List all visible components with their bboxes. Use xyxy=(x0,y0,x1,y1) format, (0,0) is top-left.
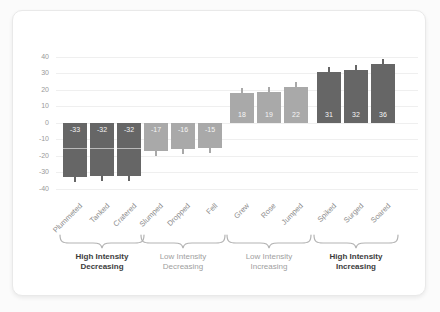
group-label-line2: Decreasing xyxy=(56,262,148,272)
error-whisker xyxy=(155,148,157,156)
bar-value-label: 18 xyxy=(230,111,254,118)
bar-highlight-stripe xyxy=(117,148,141,150)
bar-chart: 403020100-10-20-30-40-33Plummeted-32Tank… xyxy=(13,11,425,295)
group-label-line2: Decreasing xyxy=(137,262,229,272)
group-label-low-intensity-increasing: Low IntensityIncreasing xyxy=(223,252,315,273)
error-whisker xyxy=(209,145,211,153)
bar-value-label: 31 xyxy=(317,111,341,118)
bar-rose xyxy=(257,92,281,123)
category-label-fell: Fell xyxy=(204,201,219,216)
gridline xyxy=(56,57,418,58)
group-label-line1: High Intensity xyxy=(56,252,148,262)
bar-value-label: 32 xyxy=(344,111,368,118)
error-whisker xyxy=(268,87,270,95)
group-brace xyxy=(140,233,226,249)
category-label-rose: Rose xyxy=(259,201,278,220)
group-label-low-intensity-decreasing: Low IntensityDecreasing xyxy=(137,252,229,273)
group-label-line1: Low Intensity xyxy=(223,252,315,262)
group-brace xyxy=(313,233,399,249)
y-tick-label: 40 xyxy=(13,53,49,60)
gridline xyxy=(56,189,418,190)
bar-value-label: -32 xyxy=(117,126,141,133)
y-tick-label: -30 xyxy=(13,168,49,175)
bar-value-label: -17 xyxy=(144,126,168,133)
y-tick-label: 0 xyxy=(13,119,49,126)
bar-value-label: -15 xyxy=(198,126,222,133)
bar-value-label: 36 xyxy=(371,111,395,118)
category-label-soared: Soared xyxy=(369,201,392,224)
bar-value-label: -32 xyxy=(90,126,114,133)
group-label-line2: Increasing xyxy=(223,262,315,272)
category-label-slumped: Slumped xyxy=(138,201,165,228)
error-whisker xyxy=(295,82,297,90)
category-label-spiked: Spiked xyxy=(316,201,339,224)
error-whisker xyxy=(355,65,357,73)
y-tick-label: 30 xyxy=(13,69,49,76)
bar-value-label: 22 xyxy=(284,111,308,118)
bar-value-label: -33 xyxy=(63,126,87,133)
bar-grew xyxy=(230,93,254,123)
group-label-line1: Low Intensity xyxy=(137,252,229,262)
y-tick-label: -20 xyxy=(13,152,49,159)
group-brace xyxy=(226,233,312,249)
error-whisker xyxy=(241,88,243,96)
bar-highlight-stripe xyxy=(90,148,114,150)
y-tick-label: 20 xyxy=(13,86,49,93)
y-tick-label: 10 xyxy=(13,102,49,109)
error-whisker xyxy=(101,173,103,181)
category-label-cratered: Cratered xyxy=(111,201,138,228)
category-label-plummeted: Plummeted xyxy=(51,201,84,234)
group-label-line1: High Intensity xyxy=(310,252,402,262)
error-whisker xyxy=(382,59,384,67)
group-label-high-intensity-decreasing: High IntensityDecreasing xyxy=(56,252,148,273)
bar-highlight-stripe xyxy=(63,148,87,150)
category-label-tanked: Tanked xyxy=(88,201,111,224)
error-whisker xyxy=(128,173,130,181)
category-label-jumped: Jumped xyxy=(280,201,305,226)
error-whisker xyxy=(182,146,184,154)
category-label-grew: Grew xyxy=(232,201,251,220)
category-label-dropped: Dropped xyxy=(165,201,192,228)
y-tick-label: -40 xyxy=(13,185,49,192)
category-label-surged: Surged xyxy=(342,201,365,224)
bar-value-label: -16 xyxy=(171,126,195,133)
error-whisker xyxy=(74,174,76,182)
bar-value-label: 19 xyxy=(257,111,281,118)
chart-card: 403020100-10-20-30-40-33Plummeted-32Tank… xyxy=(12,10,426,296)
error-whisker xyxy=(328,67,330,75)
y-tick-label: -10 xyxy=(13,135,49,142)
group-label-high-intensity-increasing: High IntensityIncreasing xyxy=(310,252,402,273)
group-label-line2: Increasing xyxy=(310,262,402,272)
group-brace xyxy=(59,233,145,249)
